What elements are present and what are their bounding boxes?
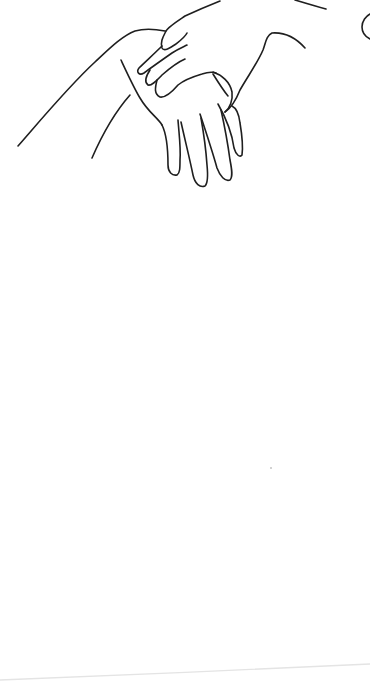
lower-hand-index-finger [162, 120, 180, 175]
upper-forearm-top-edge [295, 0, 326, 9]
upper-hand-ring-finger [146, 59, 185, 85]
illustration-canvas [0, 0, 370, 698]
lower-hand-wrist-crease [213, 74, 228, 96]
upper-hand-back-contour [166, 1, 220, 31]
hands-line-drawing [0, 0, 370, 698]
left-arm-outer-contour [18, 29, 165, 146]
lower-hand-pinky-finger [218, 104, 242, 156]
lower-hand-middle-finger [181, 118, 208, 187]
upper-hand-thumb-and-wrist [225, 33, 305, 112]
paper-edge-line [0, 664, 370, 680]
right-edge-partial-shape [362, 14, 370, 39]
stray-speck [270, 467, 272, 469]
upper-hand-pinky-finger [155, 72, 216, 97]
left-arm-inner-contour [92, 95, 130, 158]
